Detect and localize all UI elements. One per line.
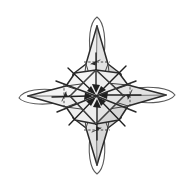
origami-star-diagram: Four-pointed origami star fold diagram <box>0 0 191 191</box>
figure-canvas: Four-pointed origami star fold diagram <box>0 0 191 191</box>
